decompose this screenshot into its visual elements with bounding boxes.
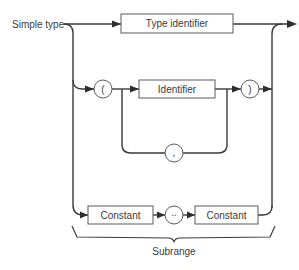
arrow-icon: [130, 86, 139, 93]
subrange-label: Subrange: [152, 246, 196, 257]
range-dots-node: ..: [165, 206, 183, 224]
exit-arrow-icon: [287, 20, 297, 28]
main-path: [64, 20, 297, 219]
constant-node-1: Constant: [88, 206, 153, 224]
comma-node: ,: [165, 144, 183, 162]
comma-label: ,: [173, 147, 176, 158]
close-paren-label: ): [248, 84, 251, 95]
arrow-icon: [85, 86, 94, 93]
constant-label-2: Constant: [206, 210, 246, 221]
syntax-diagram: Simple type: [0, 0, 299, 270]
constant-label-1: Constant: [100, 210, 140, 221]
arrow-icon: [80, 212, 88, 219]
close-paren-node: ): [241, 80, 259, 98]
type-identifier-node: Type identifier: [121, 14, 233, 33]
identifier-label: Identifier: [158, 84, 197, 95]
identifier-node: Identifier: [139, 80, 215, 98]
arrow-icon: [187, 212, 195, 219]
constant-node-2: Constant: [195, 206, 258, 224]
arrow-icon: [157, 212, 165, 219]
open-paren-node: (: [94, 80, 112, 98]
arrow-icon: [263, 86, 272, 93]
type-identifier-label: Type identifier: [146, 18, 209, 29]
subrange-brace: Subrange: [72, 226, 275, 257]
arrow-icon: [232, 86, 241, 93]
arrow-icon: [112, 21, 121, 28]
entry-label: Simple type: [12, 19, 65, 30]
range-dots-label: ..: [171, 207, 177, 218]
